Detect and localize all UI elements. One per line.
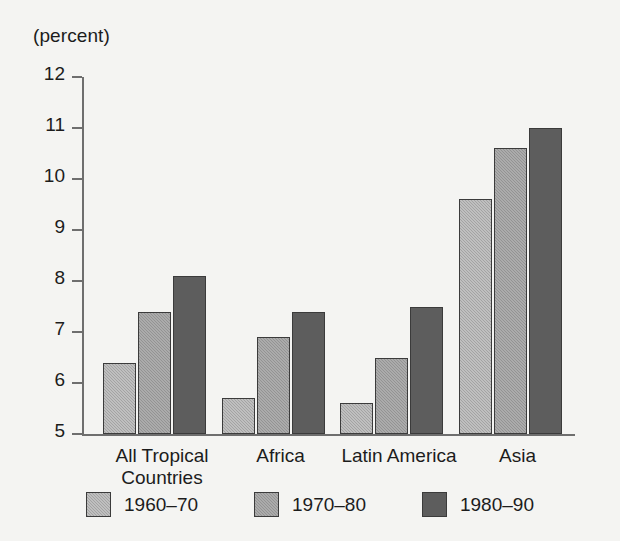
y-axis-tick-label: 6: [54, 370, 65, 390]
y-axis-tick-label: 8: [54, 268, 65, 288]
category-label: Asia: [437, 445, 599, 467]
bar: [375, 358, 408, 435]
legend-swatch: [86, 492, 111, 517]
legend-swatch: [254, 492, 279, 517]
plot-area: 12111098765 All Tropical CountriesAfrica…: [82, 77, 575, 434]
y-axis-tick: 6: [72, 382, 82, 384]
chart-legend: 1960–701970–801980–90: [0, 492, 620, 517]
bar: [292, 312, 325, 434]
y-axis-tick: 8: [72, 280, 82, 282]
bar: [529, 128, 562, 434]
y-axis-unit-caption: (percent): [33, 25, 110, 47]
legend-label: 1980–90: [460, 494, 534, 516]
bar: [459, 199, 492, 434]
bar: [222, 398, 255, 434]
legend-item[interactable]: 1970–80: [254, 492, 366, 517]
bar: [257, 337, 290, 434]
y-axis-tick-label: 10: [44, 166, 65, 186]
y-axis-tick: 7: [72, 331, 82, 333]
legend-swatch: [422, 492, 447, 517]
y-axis-tick-label: 5: [54, 421, 65, 441]
bar: [138, 312, 171, 434]
y-axis-line: [82, 77, 84, 434]
x-axis-line: [82, 434, 575, 436]
legend-label: 1960–70: [124, 494, 198, 516]
y-axis-tick: 12: [72, 76, 82, 78]
y-axis-tick: 5: [72, 433, 82, 435]
legend-label: 1970–80: [292, 494, 366, 516]
y-axis-tick-label: 11: [45, 115, 65, 135]
chart-figure: (percent) 12111098765 All Tropical Count…: [0, 0, 620, 541]
legend-item[interactable]: 1960–70: [86, 492, 198, 517]
bar: [340, 403, 373, 434]
y-axis-tick-label: 7: [54, 319, 65, 339]
y-axis-tick: 10: [72, 178, 82, 180]
y-axis-tick-label: 9: [54, 217, 65, 237]
bar: [103, 363, 136, 434]
bar: [410, 307, 443, 435]
bar: [173, 276, 206, 434]
y-axis-tick: 9: [72, 229, 82, 231]
y-axis-tick: 11: [72, 127, 82, 129]
bar: [494, 148, 527, 434]
y-axis-tick-label: 12: [44, 64, 65, 84]
legend-item[interactable]: 1980–90: [422, 492, 534, 517]
